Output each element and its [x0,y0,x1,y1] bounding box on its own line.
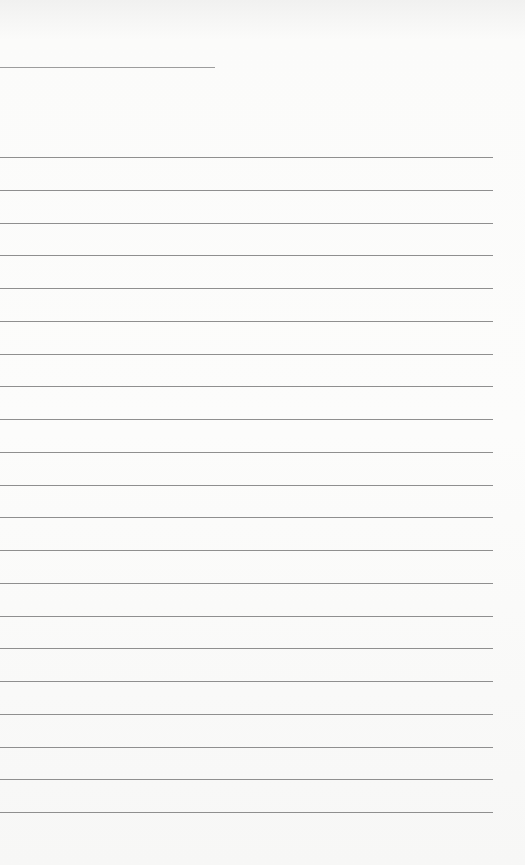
ruled-line [0,747,493,748]
ruled-line [0,616,493,617]
ruled-line [0,648,493,649]
lined-paper-page [0,0,525,865]
ruled-line [0,550,493,551]
ruled-line [0,386,493,387]
ruled-line [0,321,493,322]
ruled-line [0,779,493,780]
ruled-line [0,517,493,518]
ruled-line [0,681,493,682]
ruled-line [0,485,493,486]
ruled-line [0,255,493,256]
ruled-line [0,288,493,289]
ruled-line [0,812,493,813]
ruled-line [0,452,493,453]
ruled-line [0,419,493,420]
ruled-line [0,157,493,158]
ruled-line [0,190,493,191]
ruled-line [0,714,493,715]
ruled-line [0,223,493,224]
ruled-line [0,583,493,584]
header-short-line [0,67,215,68]
ruled-line [0,354,493,355]
